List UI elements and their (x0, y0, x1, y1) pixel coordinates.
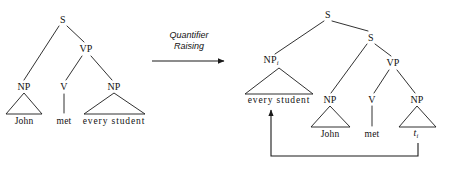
left-tree-branches (24, 26, 112, 113)
right-word-john: John (321, 130, 340, 140)
left-tree-triangles (6, 93, 145, 114)
right-tree-branches (275, 21, 415, 126)
right-node-s-lower: S (368, 33, 374, 43)
operation-label-line2: Raising (169, 41, 208, 52)
left-node-np-object: NP (107, 82, 120, 92)
left-node-s: S (60, 15, 66, 25)
right-word-every-student: every student (248, 96, 311, 106)
left-node-np-subject: NP (17, 82, 30, 92)
right-node-np-raised-index: i (277, 59, 279, 66)
right-node-np-raised-label: NP (264, 54, 277, 65)
left-node-v: V (60, 82, 67, 92)
operation-label-line1: Quantifier (169, 30, 208, 41)
right-node-np-raised: NPi (264, 55, 279, 66)
trace-index: i (417, 132, 419, 139)
right-node-np-subject: NP (323, 95, 336, 105)
tree-lines-canvas (0, 0, 454, 174)
right-node-v: V (368, 95, 375, 105)
left-word-john: John (15, 117, 34, 127)
left-word-every-student: every student (83, 117, 146, 127)
right-word-met: met (365, 130, 380, 140)
left-word-met: met (57, 117, 72, 127)
movement-arrow-path (271, 110, 418, 156)
left-node-vp: VP (79, 44, 92, 54)
right-trace-symbol: ti (414, 128, 419, 139)
right-node-np-trace: NP (410, 95, 423, 105)
right-node-s-top: S (325, 10, 331, 20)
qr-figure: S VP NP V NP John met every student Quan… (0, 0, 454, 174)
operation-label: Quantifier Raising (169, 30, 208, 52)
right-node-vp: VP (386, 58, 399, 68)
